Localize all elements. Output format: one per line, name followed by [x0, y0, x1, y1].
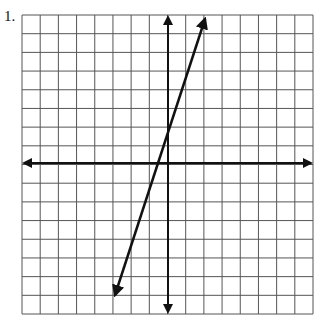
coordinate-graph: [0, 0, 327, 329]
graphed-line: [115, 19, 205, 295]
